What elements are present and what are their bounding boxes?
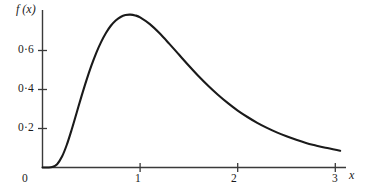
- chart-background: [0, 0, 368, 192]
- x-tick-label-2: 2: [224, 172, 244, 184]
- x-tick-label-3: 3: [325, 172, 345, 184]
- density-function-chart: f (x) x 0·6 0·4 0·2 0 1 2 3: [0, 0, 368, 192]
- chart-canvas: [0, 0, 368, 192]
- x-axis-label: x: [349, 168, 354, 183]
- y-axis-label: f (x): [16, 2, 36, 17]
- y-tick-label-0-2: 0·2: [6, 121, 34, 133]
- y-tick-label-0-6: 0·6: [6, 43, 34, 55]
- y-tick-label-0-4: 0·4: [6, 82, 34, 94]
- x-tick-label-0: 0: [15, 172, 35, 184]
- x-tick-label-1: 1: [128, 172, 148, 184]
